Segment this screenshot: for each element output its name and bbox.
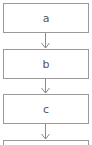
arrow-a-to-b-icon [42, 33, 50, 48]
arrow-c-to-d-icon [42, 124, 50, 139]
arrow-b-to-c-icon [42, 79, 50, 93]
edges-layer [0, 0, 92, 145]
